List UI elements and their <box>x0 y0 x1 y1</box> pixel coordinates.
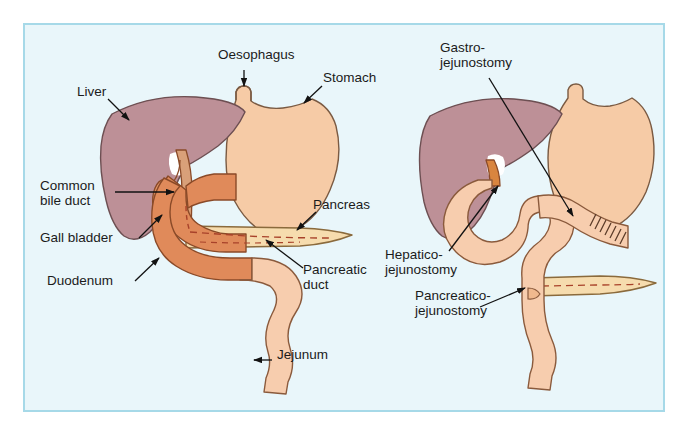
panel-normal-anatomy <box>101 70 352 394</box>
label-gall-bladder: Gall bladder <box>40 231 113 246</box>
leader-duodenum <box>135 258 159 281</box>
pancreas-right <box>532 276 656 296</box>
label-gastro-jejunostomy: Gastro- jejunostomy <box>440 41 512 70</box>
label-pancreatic-duct: Pancreatic duct <box>303 263 367 292</box>
label-oesophagus: Oesophagus <box>218 48 295 63</box>
label-pancreas: Pancreas <box>313 198 370 213</box>
anatomy-canvas <box>0 0 687 436</box>
label-liver: Liver <box>77 85 106 100</box>
label-jejunum: Jejunum <box>277 348 328 363</box>
figure-root: Liver Oesophagus Stomach Common bile duc… <box>0 0 687 436</box>
label-duodenum: Duodenum <box>47 274 113 289</box>
label-hepatico-jejunostomy: Hepatico- jejunostomy <box>385 248 457 277</box>
panel-post-whipple <box>420 78 657 390</box>
label-stomach: Stomach <box>323 71 376 86</box>
label-common-bile-duct: Common bile duct <box>40 179 95 208</box>
label-pancreatico-jejunostomy: Pancreatico- jejunostomy <box>415 289 491 318</box>
duodenum-pylorus-left <box>186 174 236 208</box>
